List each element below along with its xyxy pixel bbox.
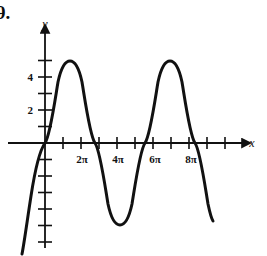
figure-container: 9. [0,0,267,256]
graph-canvas: x y 2π 4π 6π 8π 2 4 [0,0,267,256]
x-tick-label-4pi: 4π [112,153,124,165]
x-tick-label-6pi: 6π [149,153,161,165]
y-tick-label-4: 4 [28,71,34,83]
x-tick-label-8pi: 8π [185,153,197,165]
x-axis-label: x [248,136,255,150]
y-tick-label-2: 2 [28,104,34,116]
x-tick-label-2pi: 2π [76,153,88,165]
y-axis-label: y [41,17,48,31]
